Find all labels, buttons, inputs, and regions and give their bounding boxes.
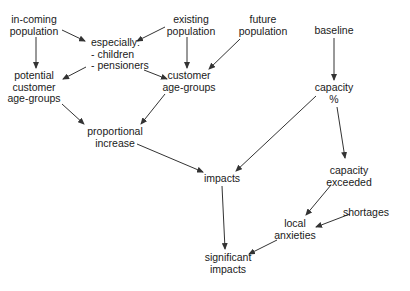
arrow-capacity-pct-to-capacity-exceeded bbox=[337, 107, 345, 158]
arrow-impacts-to-significant-impacts bbox=[222, 186, 225, 249]
node-potential-customer-age-groups: potential customer age-groups bbox=[7, 70, 60, 105]
node-existing-population: existing population bbox=[167, 14, 215, 37]
arrow-especially-to-potential-customer-age-groups bbox=[63, 67, 86, 79]
arrow-capacity-pct-to-impacts bbox=[236, 96, 316, 171]
arrow-customer-age-groups-to-proportional-increase bbox=[141, 94, 165, 124]
node-customer-age-groups: customer age-groups bbox=[162, 70, 215, 93]
node-baseline: baseline bbox=[314, 25, 353, 37]
diagram-edges bbox=[0, 0, 410, 291]
node-capacity-exceeded: capacity exceeded bbox=[326, 165, 372, 188]
arrow-capacity-exceeded-to-local-anxieties bbox=[306, 185, 331, 215]
node-impacts: impacts bbox=[204, 173, 240, 185]
arrow-proportional-increase-to-impacts bbox=[137, 144, 203, 172]
node-especially-children-pensioners: especially: - children - pensioners bbox=[91, 37, 149, 72]
arrow-future-population-to-customer-age-groups bbox=[209, 39, 240, 69]
node-capacity-percent: capacity % bbox=[315, 82, 354, 105]
node-shortages: shortages bbox=[343, 207, 389, 219]
node-future-population: future population bbox=[239, 14, 287, 37]
node-local-anxieties: local anxieties bbox=[274, 218, 315, 241]
node-significant-impacts: significant impacts bbox=[205, 252, 252, 275]
arrow-incoming-population-to-especially bbox=[62, 30, 85, 41]
arrow-potential-customer-age-groups-to-proportional-increase bbox=[62, 104, 84, 124]
node-proportional-increase: proportional increase bbox=[87, 126, 142, 149]
flow-diagram: in-coming population existing population… bbox=[0, 0, 410, 291]
arrow-local-anxieties-to-significant-impacts bbox=[249, 240, 277, 254]
node-incoming-population: in-coming population bbox=[10, 14, 58, 37]
